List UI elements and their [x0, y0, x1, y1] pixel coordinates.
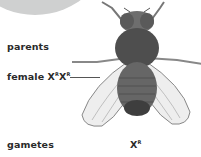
female-genotype-label: female XRXR: [7, 71, 70, 82]
parents-label: parents: [7, 41, 49, 52]
gamete-genotype-label: XR: [130, 139, 141, 150]
fruit-fly-illustration: [72, 0, 201, 135]
gametes-label: gametes: [7, 139, 54, 150]
